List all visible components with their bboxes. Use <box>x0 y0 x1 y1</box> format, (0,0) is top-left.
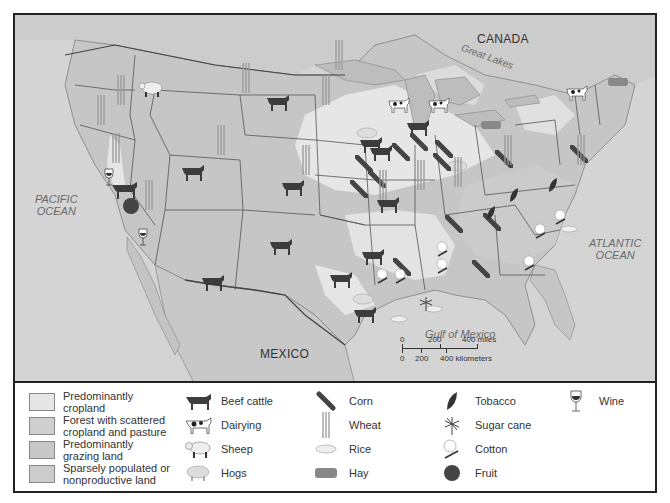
legend-item-cropland: Predominantly cropland <box>29 390 133 414</box>
legend-item-hay: Hay <box>311 463 369 483</box>
legend-item-wine: Wine <box>561 391 624 411</box>
beef-cattle-icon <box>328 270 354 288</box>
legend-item-forest: Forest with scattered cropland and pastu… <box>29 414 166 438</box>
wine-glass-icon <box>570 390 582 412</box>
cropland-swatch <box>29 393 55 411</box>
us-agriculture-map: CANADA Great Lakes MEXICO PACIFIC OCEAN … <box>13 13 657 383</box>
hay-icon <box>314 467 338 479</box>
beef-cattle-icon <box>200 273 226 291</box>
sugar-cane-icon <box>418 295 434 311</box>
scale-km-0: 0 <box>400 354 404 363</box>
rice-icon <box>315 444 337 454</box>
wheat-icon <box>240 63 252 93</box>
legend-item-wheat: Wheat <box>311 415 381 435</box>
cotton-icon <box>435 241 451 257</box>
corn-icon <box>392 143 410 161</box>
legend-item-hogs: Hogs <box>183 463 247 483</box>
corn-icon <box>315 391 337 411</box>
wheat-icon <box>115 75 127 105</box>
dairy-cow-icon <box>184 416 212 434</box>
legend-item-tobacco: Tobacco <box>437 391 516 411</box>
scale-km-400: 400 kilometers <box>440 354 492 363</box>
corn-icon <box>350 180 368 198</box>
mexico-label: MEXICO <box>260 347 309 361</box>
pacific-ocean-label: PACIFIC OCEAN <box>35 193 78 217</box>
atlantic-ocean-label: ATLANTIC OCEAN <box>589 237 641 261</box>
cotton-icon <box>442 439 462 459</box>
rice-icon <box>560 225 578 233</box>
scale-mi-400: 400 miles <box>462 335 496 344</box>
corn-icon <box>445 215 463 233</box>
cotton-icon <box>533 223 549 239</box>
wheat-icon <box>333 40 345 70</box>
scale-mi-0: 0 <box>400 335 404 344</box>
wheat-icon <box>300 145 312 175</box>
beef-cattle-icon <box>265 93 291 111</box>
cotton-icon <box>393 268 409 284</box>
legend-item-fruit: Fruit <box>437 463 497 483</box>
dairy-cow-icon <box>387 97 411 113</box>
sheep-icon <box>184 439 212 459</box>
canada-label: CANADA <box>477 32 529 46</box>
wine-glass-icon <box>104 168 114 186</box>
tobacco-leaf-icon <box>485 205 497 221</box>
wheat-icon <box>215 125 227 155</box>
dairy-cow-icon <box>565 85 589 101</box>
forest-swatch <box>29 417 55 435</box>
sheep-icon <box>138 80 164 98</box>
cotton-icon <box>522 255 538 271</box>
beef-cattle-icon <box>352 305 378 323</box>
legend: Predominantly cropland Forest with scatt… <box>13 383 657 493</box>
fruit-icon <box>122 197 140 215</box>
legend-item-beef-cattle: Beef cattle <box>183 391 273 411</box>
sparse-swatch <box>29 465 55 483</box>
beef-cattle-icon <box>180 163 206 181</box>
cotton-icon <box>553 209 569 225</box>
corn-icon <box>472 260 490 278</box>
scale-bar: 0 200 400 miles 0 200 400 kilometers <box>400 335 520 375</box>
legend-item-corn: Corn <box>311 391 373 411</box>
wheat-icon <box>319 412 333 438</box>
hog-icon <box>355 127 379 141</box>
wine-glass-icon <box>138 228 148 246</box>
hog-icon <box>184 464 212 482</box>
wheat-icon <box>575 135 587 165</box>
legend-item-sugar-cane: Sugar cane <box>437 415 531 435</box>
legend-item-rice: Rice <box>311 439 371 459</box>
dairy-cow-icon <box>427 97 451 113</box>
scale-km-200: 200 <box>415 354 428 363</box>
tobacco-leaf-icon <box>508 187 520 203</box>
hay-icon <box>607 77 629 87</box>
grazing-swatch <box>29 441 55 459</box>
wheat-icon <box>143 180 155 210</box>
legend-item-dairying: Dairying <box>183 415 261 435</box>
tobacco-leaf-icon <box>547 177 559 193</box>
tobacco-leaf-icon <box>445 391 459 411</box>
rice-icon <box>390 315 408 323</box>
corn-icon <box>433 153 451 171</box>
sugar-cane-icon <box>442 415 462 435</box>
beef-cattle-icon <box>268 237 294 255</box>
hog-icon <box>351 293 375 307</box>
legend-item-cotton: Cotton <box>437 439 507 459</box>
legend-item-grazing: Predominantly grazing land <box>29 438 133 462</box>
legend-item-sheep: Sheep <box>183 439 253 459</box>
legend-item-sparse: Sparsely populated or nonproductive land <box>29 462 170 486</box>
wheat-icon <box>377 170 389 200</box>
beef-cattle-icon <box>184 392 212 410</box>
beef-cattle-icon <box>360 247 386 265</box>
wheat-icon <box>95 95 107 125</box>
beef-cattle-icon <box>280 178 306 196</box>
wheat-icon <box>415 160 427 190</box>
wheat-icon <box>110 133 122 163</box>
cotton-icon <box>435 258 451 274</box>
scale-mi-200: 200 <box>428 335 441 344</box>
wheat-icon <box>452 157 464 187</box>
hay-icon <box>480 120 502 130</box>
fruit-icon <box>442 463 462 483</box>
corn-icon <box>410 133 428 151</box>
cotton-icon <box>375 268 391 284</box>
wheat-icon <box>320 75 332 105</box>
wheat-icon <box>502 135 514 165</box>
